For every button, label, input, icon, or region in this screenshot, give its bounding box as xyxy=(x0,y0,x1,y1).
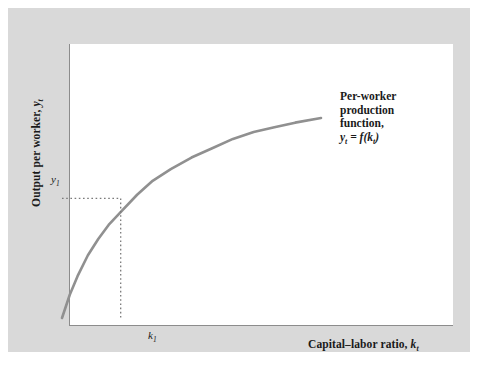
x-axis-title-text: Capital–labor ratio, xyxy=(308,338,411,350)
y-axis-title-variable: y xyxy=(30,101,42,106)
curve-annotation-formula: yt = f(kt) xyxy=(340,131,396,145)
y-axis-title-text: Output per worker, xyxy=(30,107,42,207)
x-axis-title-subscript: t xyxy=(416,344,418,353)
y-axis-title-subscript: t xyxy=(36,99,45,101)
plot-area xyxy=(69,44,453,326)
y-tick-subscript: 1 xyxy=(56,179,60,188)
curve-annotation-line-3: function, xyxy=(340,117,396,131)
curve-annotation-line-1: Per-worker xyxy=(340,90,396,104)
y-axis-title: Output per worker, yt xyxy=(30,43,42,263)
x-axis-tick-label-k1: k1 xyxy=(148,329,157,341)
x-tick-subscript: 1 xyxy=(153,335,157,344)
formula-equals: = xyxy=(347,131,359,143)
curve-annotation: Per-worker production function, yt = f(k… xyxy=(340,90,396,144)
curve-annotation-line-2: production xyxy=(340,104,396,118)
x-axis-title: Capital–labor ratio, kt xyxy=(308,338,419,350)
formula-close-paren: ) xyxy=(375,131,379,143)
figure-screenshot: Output per worker, yt Capital–labor rati… xyxy=(0,0,478,365)
y-axis-tick-label-y1: y1 xyxy=(51,173,60,185)
figure-panel: Output per worker, yt Capital–labor rati… xyxy=(8,8,470,352)
